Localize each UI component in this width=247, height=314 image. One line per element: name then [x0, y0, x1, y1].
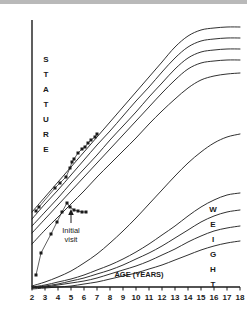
stature-axis-label: STATURE — [43, 55, 49, 154]
patient-weight-point — [69, 206, 72, 209]
patient-weight-point — [66, 202, 69, 205]
patient-weight-point — [85, 211, 88, 214]
stature-label-letter: T — [44, 70, 49, 79]
weight-label-letter: T — [211, 280, 216, 289]
patient-stature-point — [90, 139, 93, 142]
stature-label-letter: S — [43, 55, 49, 64]
x-axis-tick-label: 7 — [95, 293, 100, 302]
patient-weight-point — [35, 274, 38, 277]
x-axis-tick-label: 18 — [236, 293, 245, 302]
patient-stature-point — [35, 210, 38, 213]
stature-label-letter: A — [43, 85, 49, 94]
x-axis-tick-label: 5 — [69, 293, 74, 302]
initial-visit-label-line2: visit — [65, 235, 79, 244]
x-axis-tick-label: 8 — [108, 293, 113, 302]
patient-weight-point — [50, 233, 53, 236]
weight-percentile-5 — [32, 241, 240, 289]
x-axis-tick-label: 3 — [43, 293, 48, 302]
patient-weight-point — [56, 221, 59, 224]
x-axis-tick-labels: 23456789101112131415161718 — [30, 293, 245, 302]
stature-label-letter: E — [43, 145, 49, 154]
percentile-reference-curves — [32, 27, 240, 289]
x-axis-tick-label: 12 — [158, 293, 167, 302]
patient-stature-point — [94, 136, 97, 139]
patient-stature-point — [96, 133, 99, 136]
initial-visit-label-line1: Initial — [62, 226, 80, 235]
x-axis-tick-label: 14 — [184, 293, 193, 302]
patient-weight-point — [81, 211, 84, 214]
patient-stature-point — [73, 158, 76, 161]
x-axis-tick-label: 15 — [197, 293, 206, 302]
patient-weight-point — [40, 252, 43, 255]
x-axis-tick-label: 2 — [30, 293, 35, 302]
patient-stature-point — [69, 167, 72, 170]
patient-weight-point — [73, 209, 76, 212]
growth-chart-plot: 23456789101112131415161718 AGE (YEARS) S… — [0, 0, 247, 314]
weight-label-letter: G — [210, 250, 216, 259]
x-axis-tick-label: 17 — [223, 293, 232, 302]
x-axis-title: AGE (YEARS) — [114, 270, 164, 279]
patient-stature-point — [77, 152, 80, 155]
patient-stature-point — [81, 148, 84, 151]
x-axis-tick-label: 16 — [210, 293, 219, 302]
x-axis-tick-label: 10 — [132, 293, 141, 302]
patient-stature-point — [87, 142, 90, 145]
patient-stature-point — [71, 161, 74, 164]
weight-label-letter: E — [210, 220, 216, 229]
growth-chart-figure: 23456789101112131415161718 AGE (YEARS) S… — [0, 0, 247, 314]
patient-weight-point — [61, 211, 64, 214]
x-axis-tick-label: 6 — [82, 293, 87, 302]
stature-label-letter: R — [43, 130, 49, 139]
x-axis-tick-label: 11 — [145, 293, 154, 302]
weight-label-letter: H — [210, 265, 216, 274]
stature-label-letter: T — [44, 100, 49, 109]
initial-visit-annotation: Initial visit — [62, 209, 80, 244]
patient-weight-point — [77, 210, 80, 213]
patient-stature-point — [38, 206, 41, 209]
x-axis-tick-label: 9 — [121, 293, 126, 302]
patient-stature-point — [65, 176, 68, 179]
patient-stature-point — [84, 146, 87, 149]
x-axis-tick-label: 4 — [56, 293, 61, 302]
weight-label-letter: I — [212, 235, 214, 244]
weight-label-letter: W — [209, 205, 217, 214]
patient-stature-point — [59, 182, 62, 185]
patient-stature-point — [54, 187, 57, 190]
x-axis-tick-label: 13 — [171, 293, 180, 302]
axis-lines — [32, 20, 240, 287]
stature-label-letter: U — [43, 115, 49, 124]
